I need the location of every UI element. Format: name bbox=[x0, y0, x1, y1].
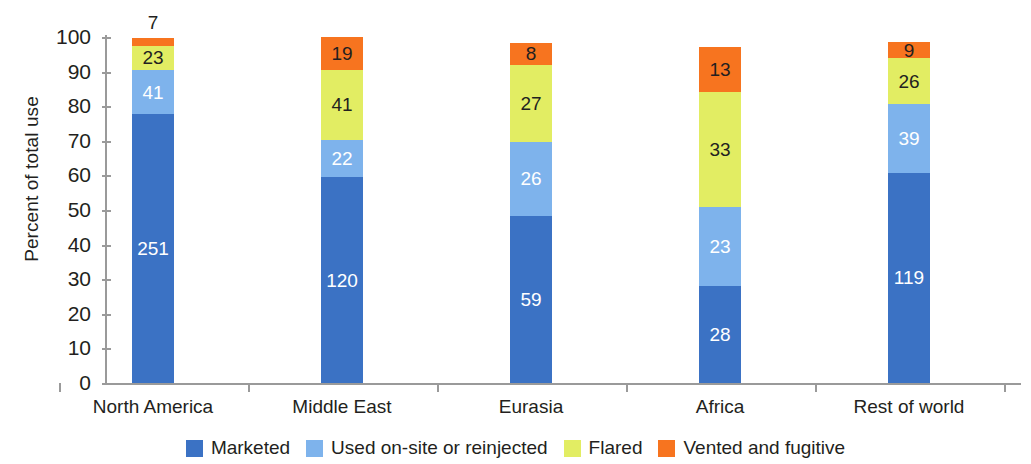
bar-segment[interactable]: 13 bbox=[699, 47, 741, 92]
bar-group: 28233313 bbox=[670, 37, 770, 383]
y-axis-tick-label: 20 bbox=[21, 300, 91, 328]
bar-segment[interactable]: 8 bbox=[510, 43, 552, 66]
y-axis-tick-label: 30 bbox=[21, 265, 91, 293]
bar-stack[interactable]: 28233313 bbox=[699, 37, 741, 383]
x-axis-category-label: Eurasia bbox=[436, 396, 626, 418]
plot-area: 2514123712022411959262782823331311939269 bbox=[105, 37, 1021, 383]
y-axis-tick-label: 60 bbox=[21, 161, 91, 189]
y-axis-tick-label: 90 bbox=[21, 58, 91, 86]
bar-group: 120224119 bbox=[292, 37, 392, 383]
legend-swatch-icon bbox=[658, 440, 675, 457]
bar-segment[interactable]: 23 bbox=[132, 46, 174, 71]
chart-legend: MarketedUsed on-site or reinjectedFlared… bbox=[0, 437, 1031, 459]
bar-segment[interactable]: 23 bbox=[699, 207, 741, 287]
bar-segment-value-label: 23 bbox=[142, 48, 163, 67]
bar-segment[interactable]: 33 bbox=[699, 92, 741, 206]
legend-item[interactable]: Marketed bbox=[186, 437, 290, 459]
bar-segment-value-label: 19 bbox=[331, 44, 352, 63]
bar-segment[interactable]: 26 bbox=[888, 58, 930, 104]
x-axis-tick-mark bbox=[1004, 383, 1006, 392]
bar-segment[interactable]: 41 bbox=[132, 70, 174, 114]
bar-stack[interactable]: 11939269 bbox=[888, 37, 930, 383]
bar-segment[interactable]: 39 bbox=[888, 104, 930, 173]
bar-segment-value-label: 119 bbox=[894, 268, 924, 287]
legend-label: Vented and fugitive bbox=[683, 437, 845, 459]
y-axis-tick-label: 50 bbox=[21, 196, 91, 224]
x-axis-category-label: Middle East bbox=[247, 396, 437, 418]
bar-segment[interactable]: 120 bbox=[321, 177, 363, 383]
x-axis-tick-mark bbox=[437, 383, 439, 392]
y-axis-tick-mark bbox=[102, 383, 111, 385]
bar-stack[interactable]: 5926278 bbox=[510, 37, 552, 383]
bar-segment-value-label: 28 bbox=[709, 325, 730, 344]
x-axis-line bbox=[105, 383, 1021, 385]
legend-swatch-icon bbox=[306, 440, 323, 457]
legend-item[interactable]: Used on-site or reinjected bbox=[306, 437, 548, 459]
bar-segment[interactable]: 27 bbox=[510, 65, 552, 141]
x-axis-tick-mark bbox=[248, 383, 250, 392]
legend-item[interactable]: Flared bbox=[564, 437, 643, 459]
bar-segment-value-label: 26 bbox=[520, 169, 541, 188]
y-axis-tick-label: 100 bbox=[21, 23, 91, 51]
bar-segment-value-label: 120 bbox=[326, 271, 358, 290]
legend-item[interactable]: Vented and fugitive bbox=[658, 437, 845, 459]
bar-segment-value-label: 41 bbox=[142, 83, 163, 102]
bar-segment[interactable] bbox=[132, 38, 174, 46]
stacked-bar-chart: Percent of total use 1009080706050403020… bbox=[0, 0, 1031, 464]
legend-label: Flared bbox=[589, 437, 643, 459]
bar-group: 25141237 bbox=[103, 37, 203, 383]
bar-segment[interactable]: 26 bbox=[510, 142, 552, 216]
legend-label: Marketed bbox=[211, 437, 290, 459]
bar-segment-value-label: 9 bbox=[904, 41, 915, 60]
y-axis-tick-label: 80 bbox=[21, 92, 91, 120]
bar-stack[interactable]: 120224119 bbox=[321, 37, 363, 383]
y-axis-tick-label: 40 bbox=[21, 231, 91, 259]
x-axis-category-label: North America bbox=[58, 396, 248, 418]
bar-segment-value-label: 23 bbox=[709, 237, 730, 256]
bar-segment-value-label: 26 bbox=[898, 72, 919, 91]
bar-segment-value-label: 41 bbox=[331, 95, 352, 114]
bar-segment-value-label: 13 bbox=[709, 60, 730, 79]
bar-segment-value-label: 27 bbox=[520, 94, 541, 113]
bar-segment-value-label: 251 bbox=[137, 239, 169, 258]
bar-segment[interactable]: 28 bbox=[699, 286, 741, 383]
bar-segment[interactable]: 22 bbox=[321, 140, 363, 178]
bar-group: 5926278 bbox=[481, 37, 581, 383]
bar-segment[interactable]: 119 bbox=[888, 173, 930, 383]
bar-segment[interactable]: 41 bbox=[321, 70, 363, 140]
x-axis-category-label: Rest of world bbox=[814, 396, 1004, 418]
x-axis-tick-mark bbox=[626, 383, 628, 392]
x-axis-category-label: Africa bbox=[625, 396, 815, 418]
legend-swatch-icon bbox=[564, 440, 581, 457]
bar-segment[interactable]: 9 bbox=[888, 42, 930, 58]
y-axis-tick-label: 70 bbox=[21, 127, 91, 155]
bar-segment-value-label: 39 bbox=[898, 129, 919, 148]
legend-label: Used on-site or reinjected bbox=[331, 437, 548, 459]
bar-segment-value-label: 8 bbox=[526, 44, 537, 63]
bar-segment[interactable]: 19 bbox=[321, 37, 363, 70]
bar-segment-value-label: 7 bbox=[132, 13, 174, 32]
x-axis-tick-mark bbox=[59, 383, 61, 392]
bar-segment-value-label: 22 bbox=[331, 149, 352, 168]
bar-stack[interactable]: 25141237 bbox=[132, 37, 174, 383]
bar-group: 11939269 bbox=[859, 37, 959, 383]
x-axis-tick-mark bbox=[815, 383, 817, 392]
bar-segment-value-label: 59 bbox=[520, 290, 541, 309]
legend-swatch-icon bbox=[186, 440, 203, 457]
bar-segment[interactable]: 251 bbox=[132, 114, 174, 383]
y-axis-tick-label: 0 bbox=[21, 369, 91, 397]
bar-segment[interactable]: 59 bbox=[510, 216, 552, 383]
bar-segment-value-label: 33 bbox=[709, 140, 730, 159]
y-axis-tick-label: 10 bbox=[21, 334, 91, 362]
